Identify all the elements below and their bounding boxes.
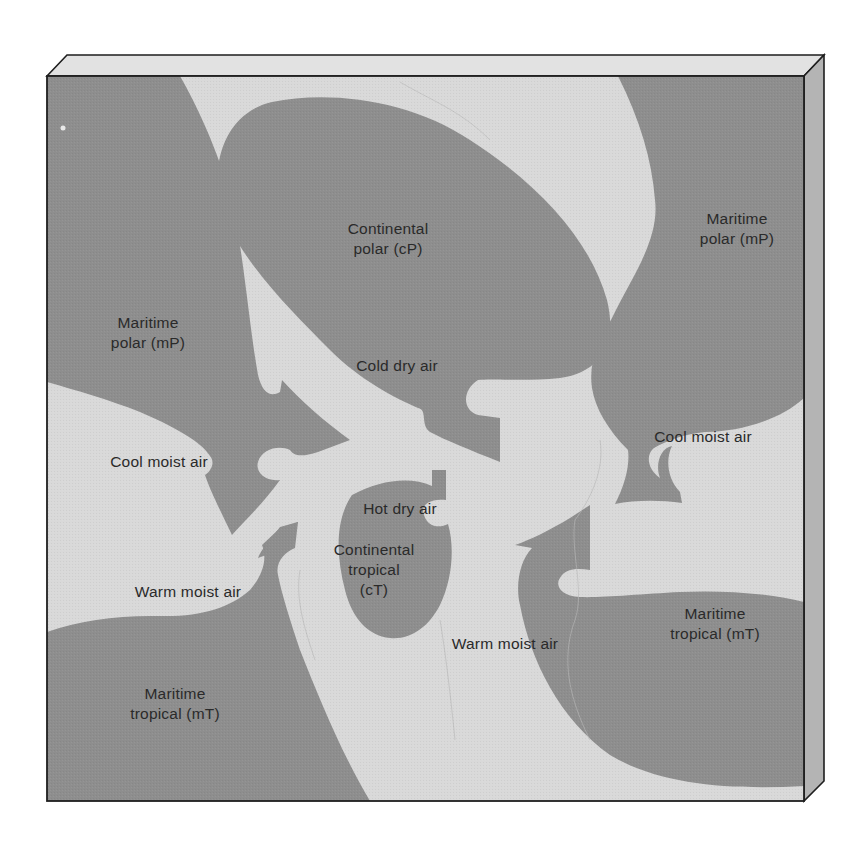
air-masses-diagram: Continental polar (cP) Maritime polar (m… bbox=[0, 0, 864, 845]
label-warm-moist-air-east: Warm moist air bbox=[452, 634, 558, 654]
label-hot-dry-air: Hot dry air bbox=[363, 499, 437, 519]
label-maritime-tropical-east: Maritime tropical (mT) bbox=[670, 604, 760, 644]
label-cold-dry-air: Cold dry air bbox=[356, 356, 438, 376]
box-top-face bbox=[47, 55, 824, 76]
label-maritime-tropical-west: Maritime tropical (mT) bbox=[130, 684, 220, 724]
label-continental-polar: Continental polar (cP) bbox=[348, 219, 429, 259]
box-side-face bbox=[804, 55, 824, 801]
label-warm-moist-air-west: Warm moist air bbox=[135, 582, 241, 602]
label-continental-tropical: Continental tropical (cT) bbox=[334, 540, 415, 600]
spot bbox=[61, 126, 66, 131]
label-maritime-polar-west: Maritime polar (mP) bbox=[111, 313, 185, 353]
label-maritime-polar-east: Maritime polar (mP) bbox=[700, 209, 774, 249]
label-cool-moist-air-west: Cool moist air bbox=[110, 452, 208, 472]
label-cool-moist-air-east: Cool moist air bbox=[654, 427, 752, 447]
